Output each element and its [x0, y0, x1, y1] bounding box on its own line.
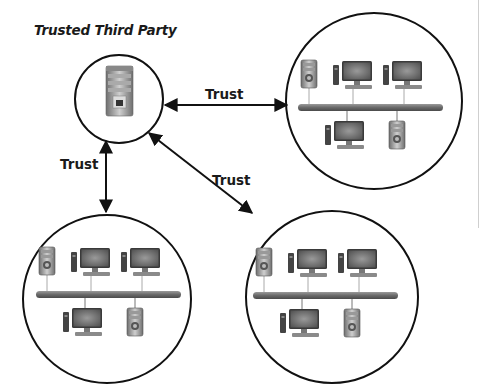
server-icon	[106, 66, 133, 116]
diagram-canvas	[0, 0, 481, 390]
edge-label-bottom-right: Trust	[212, 172, 250, 188]
edge-label-right: Trust	[205, 86, 243, 102]
network-bottom-right	[246, 211, 418, 383]
edge-label-bottom-left: Trust	[60, 156, 98, 172]
network-bottom-left	[23, 215, 191, 383]
trust-diagram: Trusted Third Party Trust Trust Trust	[0, 0, 481, 390]
page-edge-divider	[478, 0, 479, 228]
ttp-node	[75, 55, 163, 143]
network-top-right	[286, 13, 462, 189]
diagram-title: Trusted Third Party	[34, 22, 177, 38]
